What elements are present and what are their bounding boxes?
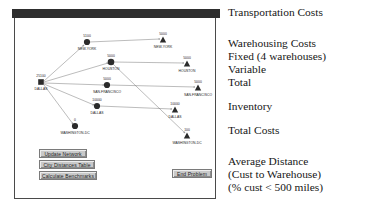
label-warehousing-costs: Warehousing Costs <box>228 37 316 50</box>
node-warehouse-sanfrancisco-value: 5000 <box>103 77 111 81</box>
label-pct-cust-500-miles: (% cust < 500 miles) <box>228 181 323 194</box>
edge-dallas-washingtondc <box>44 85 73 124</box>
node-destination-sanfrancisco[interactable]: 5000 SAN-FRANCISCO <box>184 80 212 97</box>
label-cust-to-warehouse: (Cust to Warehouse) <box>228 168 321 181</box>
node-destination-washingtondc[interactable]: 100 WASHINGTON-DC <box>172 128 202 145</box>
node-warehouse-newyork-label: NEW-YORK <box>78 47 97 51</box>
label-warehousing-total: Total <box>228 76 251 89</box>
network-diagram-svg: 25100 DALLAS 5100 NEW-YORK 5000 HOUSTON … <box>15 20 215 156</box>
label-average-distance: Average Distance <box>228 155 308 168</box>
node-destination-dallas-label: DALLAS <box>168 115 182 119</box>
edge-wsf-dsf <box>109 85 195 87</box>
node-warehouse-sanfrancisco[interactable]: 5000 SAN-FRANCISCO <box>93 77 121 94</box>
edge-wdal-ddal <box>99 106 172 109</box>
node-destination-washingtondc-value: 100 <box>184 128 190 132</box>
calculate-benchmarks-button[interactable]: Calculate Benchmarks <box>39 171 97 180</box>
node-destination-houston[interactable]: 5000 HOUSTON <box>179 56 196 73</box>
edge-dallas-dallas <box>44 84 94 105</box>
triangle-node-icon <box>172 107 178 113</box>
edge-whou-dwdc <box>113 64 185 133</box>
label-inventory: Inventory <box>228 100 272 113</box>
label-fixed-warehouses: Fixed (4 warehouses) <box>228 50 326 63</box>
node-plant-dallas-value: 25100 <box>36 74 46 78</box>
triangle-node-icon <box>195 85 201 91</box>
node-warehouse-dallas-label: DALLAS <box>90 111 104 115</box>
label-transportation-costs: Transportation Costs <box>228 6 323 19</box>
triangle-node-icon <box>184 61 190 67</box>
node-plant-dallas[interactable]: 25100 DALLAS <box>34 74 48 91</box>
city-distances-table-button[interactable]: City Distances Table <box>39 160 95 169</box>
circle-node-icon <box>108 59 115 66</box>
edge-whou-dhou <box>113 62 184 63</box>
node-destination-houston-value: 5000 <box>183 56 191 60</box>
end-problem-button[interactable]: End Problem <box>172 169 212 178</box>
node-warehouse-houston[interactable]: 5000 HOUSTON <box>103 54 120 71</box>
node-warehouse-dallas-value: 10000 <box>92 98 102 102</box>
circle-node-icon <box>104 82 110 88</box>
triangle-node-icon <box>160 37 166 43</box>
network-diagram[interactable]: 25100 DALLAS 5100 NEW-YORK 5000 HOUSTON … <box>15 20 215 156</box>
node-warehouse-newyork[interactable]: 5100 NEW-YORK <box>78 34 97 51</box>
circle-node-icon <box>72 123 78 129</box>
node-destination-sanfrancisco-value: 5000 <box>194 80 202 84</box>
circle-node-icon <box>84 39 90 45</box>
triangle-node-icon <box>184 133 190 139</box>
edge-dallas-sanfrancisco <box>44 83 104 85</box>
node-destination-dallas[interactable]: 10000 DALLAS <box>168 102 182 119</box>
node-warehouse-dallas[interactable]: 10000 DALLAS <box>90 98 104 115</box>
node-plant-dallas-label: DALLAS <box>34 87 48 91</box>
edge-wny-dny <box>89 39 160 42</box>
node-warehouse-houston-label: HOUSTON <box>103 67 120 71</box>
node-destination-houston-label: HOUSTON <box>179 69 196 73</box>
node-warehouse-washingtondc[interactable]: 0 WASHINGTON-DC <box>60 118 90 135</box>
circle-node-icon <box>94 103 100 109</box>
label-total-costs: Total Costs <box>228 124 279 137</box>
window-title-bar[interactable] <box>12 9 220 18</box>
screen: 25100 DALLAS 5100 NEW-YORK 5000 HOUSTON … <box>0 0 384 221</box>
node-destination-sanfrancisco-label: SAN-FRANCISCO <box>184 93 212 97</box>
node-destination-newyork-value: 5000 <box>159 32 167 36</box>
node-warehouse-washingtondc-label: WASHINGTON-DC <box>60 131 90 135</box>
update-network-button[interactable]: Update Network <box>39 149 87 158</box>
node-destination-newyork-label: NEW-YORK <box>154 45 173 49</box>
label-variable: Variable <box>228 63 266 76</box>
node-destination-washingtondc-label: WASHINGTON-DC <box>172 141 202 145</box>
node-warehouse-houston-value: 5000 <box>107 54 115 58</box>
cost-report-column: Transportation Costs Warehousing Costs F… <box>228 0 384 221</box>
node-destination-newyork[interactable]: 5000 NEW-YORK <box>154 32 173 49</box>
node-warehouse-newyork-value: 5100 <box>83 34 91 38</box>
application-window: 25100 DALLAS 5100 NEW-YORK 5000 HOUSTON … <box>14 13 216 199</box>
node-warehouse-washingtondc-value: 0 <box>74 118 76 122</box>
square-node-icon <box>38 79 44 85</box>
node-warehouse-sanfrancisco-label: SAN-FRANCISCO <box>93 90 121 94</box>
node-destination-dallas-value: 10000 <box>170 102 180 106</box>
